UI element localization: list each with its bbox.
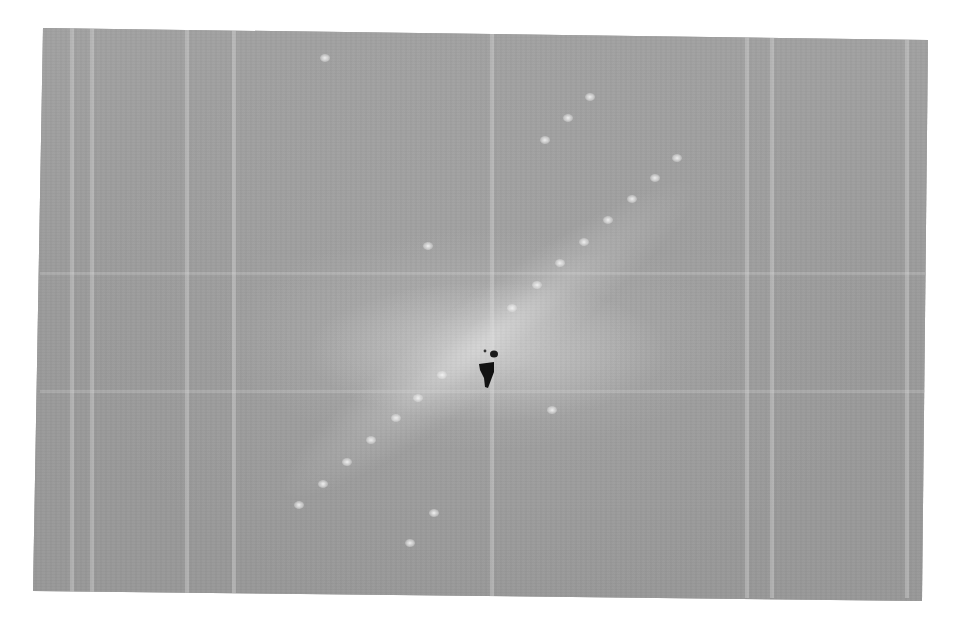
beam-stop	[474, 348, 504, 390]
diffraction-image	[0, 0, 964, 623]
grain-noise	[0, 0, 964, 623]
